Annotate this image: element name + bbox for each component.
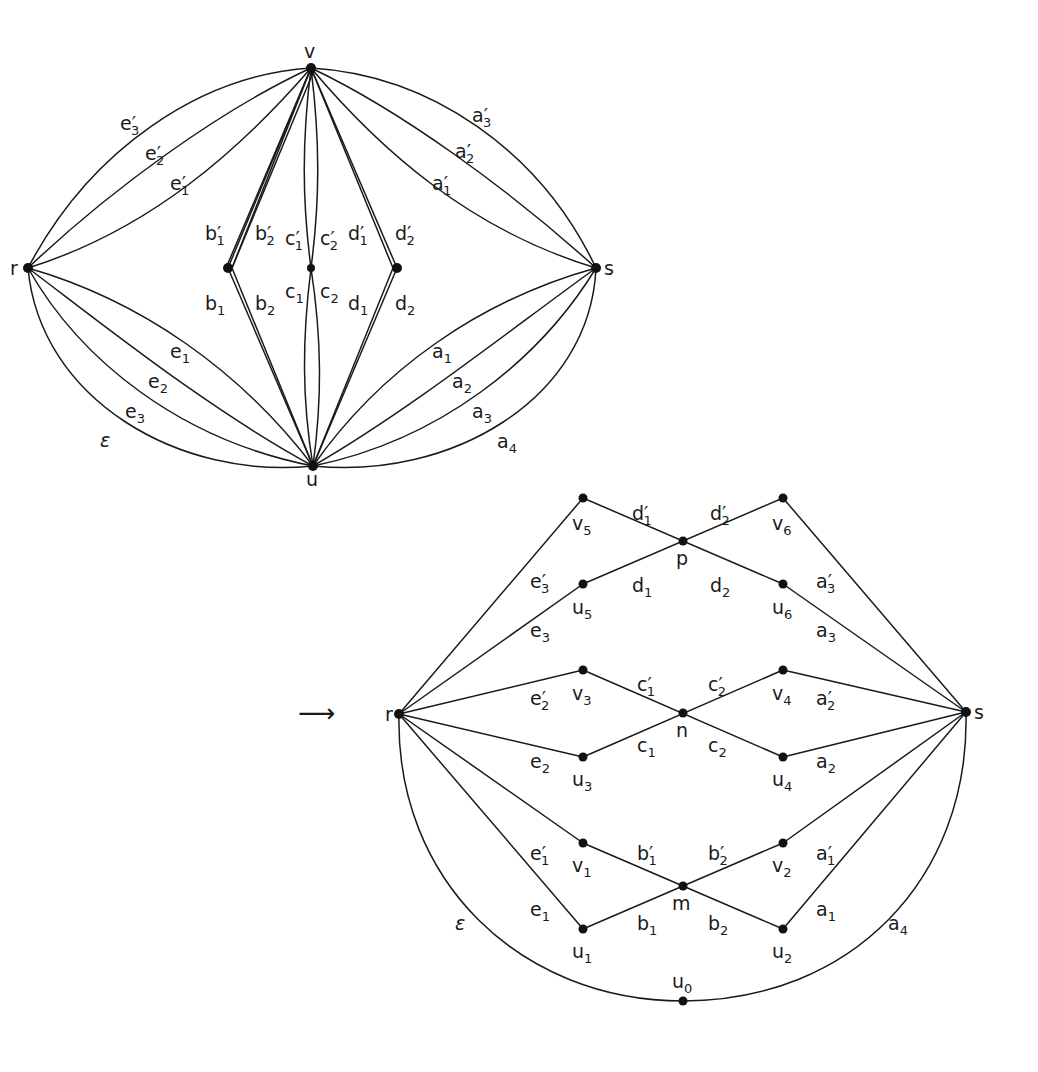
edge-label: b1 [637, 912, 657, 938]
node-label-v2: v2 [772, 854, 792, 880]
node-u5 [579, 580, 588, 589]
node-u0 [679, 997, 688, 1006]
node-label-u: u [306, 468, 318, 490]
node-label-v5: v5 [572, 512, 592, 538]
edge-label: b2 [255, 292, 275, 318]
edge-label: a1 [816, 898, 836, 924]
edge-label: c1 [285, 280, 304, 306]
node-p [679, 537, 688, 546]
node-label-u2: u2 [772, 940, 792, 966]
node-u3 [579, 753, 588, 762]
edge-label: a′2 [816, 687, 835, 713]
edge-label: c′2 [708, 673, 726, 699]
node-label-u4: u4 [772, 768, 792, 794]
node-label-u3: u3 [572, 768, 592, 794]
edge-label: b1 [205, 292, 225, 318]
edge-label: e′3 [530, 570, 549, 596]
edge-label: b′1 [205, 222, 225, 248]
edge-label: a′3 [472, 104, 491, 130]
edge-label: b′2 [708, 842, 728, 868]
left-graph-edge-labels: e′3e′2e′1a′3a′2a′1b′1b′2c′1c′2d′1d′2b1b2… [100, 104, 517, 456]
edge-label: ε [455, 912, 465, 934]
edge-label: e3 [125, 400, 145, 426]
edge-label: d′2 [395, 222, 415, 248]
edge-label: a′1 [432, 172, 451, 198]
node-label-m: m [672, 892, 691, 914]
edge-label: d1 [348, 292, 368, 318]
edge-label: a3 [472, 400, 492, 426]
edge-label: a2 [452, 370, 472, 396]
edge-label: b2 [708, 912, 728, 938]
edge-label: b′1 [637, 842, 657, 868]
node-label-s: s [604, 257, 614, 279]
node-n [679, 709, 688, 718]
node-b [223, 263, 233, 273]
node-label-u5: u5 [572, 596, 592, 622]
edge-label: a4 [888, 912, 908, 938]
node-label-r: r [385, 703, 393, 725]
edge-label: a1 [432, 340, 452, 366]
node-v3 [579, 666, 588, 675]
edge-label: b′2 [255, 222, 275, 248]
node-v1 [579, 839, 588, 848]
edge-label: e′1 [170, 172, 189, 198]
node-s [961, 707, 971, 717]
node-c [307, 264, 315, 272]
node-u1 [579, 925, 588, 934]
edge-label: d′2 [710, 502, 730, 528]
node-label-v6: v6 [772, 512, 792, 538]
edge-label: c2 [320, 280, 339, 306]
node-d [392, 263, 402, 273]
node-label-u0: u0 [672, 970, 692, 996]
edge-label: c′1 [285, 227, 303, 253]
node-label-v1: v1 [572, 854, 592, 880]
node-label-s: s [974, 701, 984, 723]
edge-label: d2 [710, 574, 730, 600]
edge-label: d1 [632, 574, 652, 600]
edge-label: e1 [530, 898, 550, 924]
node-label-r: r [10, 257, 18, 279]
graph-figure: v r s u e′3e′2e′1a′3a′2a′1b′1b′2c′1c′2d′… [0, 0, 1038, 1072]
edge-label: a′1 [816, 842, 835, 868]
edge-label: d′1 [348, 222, 368, 248]
edge-label: d2 [395, 292, 415, 318]
node-v4 [779, 666, 788, 675]
node-label-u6: u6 [772, 596, 792, 622]
edge-label: c2 [708, 734, 727, 760]
node-s [591, 263, 601, 273]
node-label-p: p [676, 547, 688, 569]
edge-label: e′2 [530, 687, 549, 713]
node-label-n: n [676, 719, 688, 741]
node-r [23, 263, 33, 273]
node-label-u1: u1 [572, 940, 592, 966]
node-u2 [779, 925, 788, 934]
node-u6 [779, 580, 788, 589]
node-v6 [779, 494, 788, 503]
left-graph-nodes [23, 63, 601, 471]
edge-label: a3 [816, 619, 836, 645]
right-graph-nodes [394, 494, 971, 1006]
edge-label: e′2 [145, 142, 164, 168]
node-u4 [779, 753, 788, 762]
node-v5 [579, 494, 588, 503]
edge-label: c1 [637, 734, 656, 760]
edge-label: a′3 [816, 570, 835, 596]
node-label-v3: v3 [572, 682, 592, 708]
node-v2 [779, 839, 788, 848]
edge-label: e3 [530, 619, 550, 645]
node-m [679, 882, 688, 891]
edge-label: c′2 [320, 227, 338, 253]
right-graph-edges [399, 498, 966, 1001]
node-label-v4: v4 [772, 682, 792, 708]
edge-label: e2 [148, 370, 168, 396]
node-label-v: v [304, 40, 315, 62]
edge-label: e′1 [530, 842, 549, 868]
node-v [306, 63, 316, 73]
transform-arrow-icon: ⟶ [298, 698, 335, 728]
edge-label: e2 [530, 750, 550, 776]
edge-label: a4 [497, 430, 517, 456]
edge-label: ε [100, 429, 110, 451]
node-r [394, 709, 404, 719]
edge-label: a2 [816, 750, 836, 776]
edge-label: e′3 [120, 112, 139, 138]
